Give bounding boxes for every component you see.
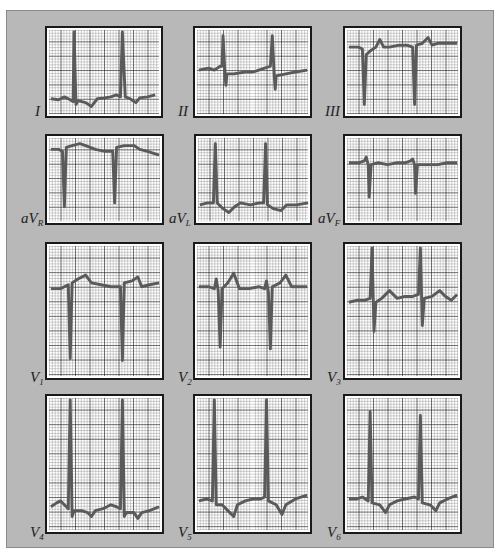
lead-label-text: I (35, 103, 40, 119)
ecg-strip-lead-avl (194, 134, 312, 225)
lead-label-text: V (178, 524, 187, 540)
ecg-strip-lead-v6 (343, 394, 462, 534)
lead-label-subscript: 1 (39, 377, 44, 387)
ecg-strip-lead-ii (193, 26, 312, 118)
lead-label-subscript: 6 (336, 532, 341, 542)
lead-label-i: I (35, 104, 40, 119)
ecg-strip-lead-v2 (193, 242, 312, 380)
lead-label-v2: V2 (178, 370, 192, 387)
ecg-trace-lead-v5 (195, 396, 310, 532)
lead-label-avf: aVF (318, 211, 340, 228)
lead-label-subscript: F (335, 218, 341, 228)
ecg-trace-lead-avl (196, 136, 310, 223)
ecg-strip-lead-v3 (343, 242, 462, 380)
ecg-trace-lead-v2 (195, 244, 310, 378)
lead-label-avl: aVL (169, 211, 191, 228)
lead-label-avr: aVR (21, 211, 43, 228)
ecg-strip-lead-iii (343, 26, 462, 118)
lead-label-text: V (30, 369, 39, 385)
lead-label-v6: V6 (327, 525, 341, 542)
lead-label-subscript: L (186, 218, 191, 228)
lead-label-text: aV (318, 210, 335, 226)
lead-label-subscript: 5 (187, 532, 192, 542)
lead-label-text: aV (21, 210, 38, 226)
ecg-trace-lead-avf (345, 136, 460, 223)
lead-label-subscript: R (38, 218, 44, 228)
lead-label-ii: II (178, 104, 188, 119)
lead-label-v1: V1 (30, 370, 44, 387)
lead-label-text: II (178, 103, 188, 119)
lead-label-text: V (327, 369, 336, 385)
lead-label-v4: V4 (30, 525, 44, 542)
lead-label-text: V (178, 369, 187, 385)
ecg-strip-lead-v1 (45, 242, 164, 380)
lead-label-subscript: 4 (39, 532, 44, 542)
lead-label-subscript: 3 (336, 377, 341, 387)
lead-label-text: V (30, 524, 39, 540)
lead-label-iii: III (325, 104, 340, 119)
ecg-strip-lead-v4 (45, 394, 164, 534)
ecg-strip-lead-avr (45, 134, 164, 225)
lead-label-text: V (327, 524, 336, 540)
ecg-trace-lead-v3 (345, 244, 460, 378)
ecg-trace-lead-iii (345, 28, 460, 116)
ecg-trace-lead-i (47, 28, 161, 116)
ecg-trace-lead-ii (195, 28, 310, 116)
lead-label-text: III (325, 103, 340, 119)
ecg-strip-lead-v5 (193, 394, 312, 534)
ecg-strip-lead-avf (343, 134, 462, 225)
lead-label-text: aV (169, 210, 186, 226)
lead-label-v5: V5 (178, 525, 192, 542)
ecg-trace-lead-v6 (345, 396, 460, 532)
ecg-trace-lead-v1 (47, 244, 162, 378)
lead-label-subscript: 2 (187, 377, 192, 387)
ecg-trace-lead-avr (47, 136, 162, 223)
ecg-trace-lead-v4 (47, 396, 162, 532)
lead-label-v3: V3 (327, 370, 341, 387)
ecg-strip-lead-i (45, 26, 163, 118)
